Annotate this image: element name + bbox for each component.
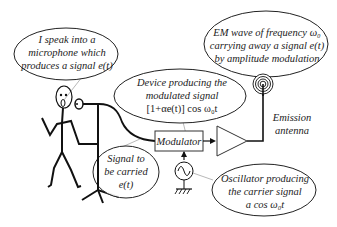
oscillator-bubble-line-3: a cos ω₀t: [246, 199, 286, 210]
person-head: [56, 86, 72, 108]
arrow-head-icon: [210, 138, 216, 144]
oscillator-bubble: Oscillator producing the carrier signal …: [193, 164, 316, 216]
ground-icon: [175, 189, 192, 194]
person-leg-left: [48, 152, 62, 187]
em-wave-bubble: EM wave of frequency ω₀ carrying away a …: [204, 11, 328, 77]
device-bubble-formula: [1+αe(t)] cos ω₀t: [147, 103, 218, 115]
em-wave-bubble-line-2: carrying away a signal e(t): [210, 40, 325, 52]
concentric-circles-antenna-icon: [253, 74, 273, 96]
modulator-block: Modulator: [155, 131, 203, 151]
oscillator-bubble-line-1: Oscillator producing: [221, 173, 309, 184]
signal-bubble-line-3: e(t): [119, 179, 134, 191]
person-arms: [42, 118, 98, 144]
person-eye-left: [60, 94, 62, 96]
amplifier-triangle: [217, 126, 247, 156]
device-bubble-line-2: modulated signal: [146, 90, 219, 101]
person-stick-figure: [42, 86, 98, 187]
person-body: [62, 108, 63, 152]
microphone-grille-dot: [76, 103, 78, 105]
signal-bubble: Signal to be carried e(t): [93, 139, 159, 198]
em-wave-bubble-line-1: EM wave of frequency ω₀: [212, 27, 321, 38]
device-bubble: Device producing the modulated signal [1…: [114, 69, 246, 134]
device-bubble-line-1: Device producing the: [136, 77, 227, 88]
speaker-bubble: I speak into a microphone which produces…: [14, 28, 118, 100]
signal-bubble-line-1: Signal to: [107, 153, 145, 164]
em-wave-bubble-line-3: by amplitude modulation: [215, 53, 320, 64]
signal-bubble-line-2: be carried: [104, 166, 148, 177]
person-mouth: [61, 100, 65, 107]
speaker-bubble-line-1: I speak into a: [38, 34, 96, 45]
arrow-up-icon: [181, 151, 187, 157]
antenna-label-line-2: antenna: [275, 125, 309, 136]
speaker-bubble-line-3: produces a signal e(t): [20, 60, 113, 72]
oscillator-source: [175, 151, 193, 194]
speaker-bubble-line-2: microphone which: [28, 47, 105, 58]
antenna-label-line-1: Emission: [272, 112, 312, 123]
person-leg-right: [62, 152, 81, 187]
oscillator-bubble-line-2: the carrier signal: [228, 186, 302, 197]
modulator-label: Modulator: [156, 136, 203, 147]
am-transmission-diagram: I speak into a microphone which produces…: [0, 0, 337, 227]
person-eye-right: [65, 94, 67, 96]
oscillator-bubble-pointer: [193, 173, 213, 180]
